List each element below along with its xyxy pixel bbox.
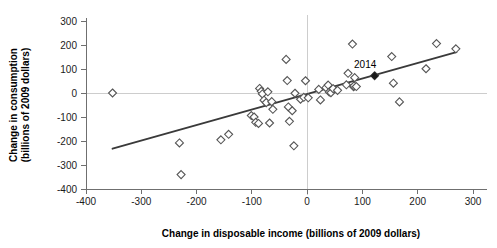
y-tick-label: -400 [57,184,77,195]
data-point-marker [177,171,185,179]
data-point-marker [301,77,309,85]
data-point-marker [290,142,298,150]
x-tick-label: -100 [242,196,262,207]
data-point-marker [269,105,277,113]
x-tick-label: 300 [465,196,482,207]
y-tick-label: -100 [57,112,77,123]
annotation-label-2014: 2014 [354,59,377,70]
data-point-marker [395,98,403,106]
scatter-chart: -400-300-200-1000100200300 -400-300-200-… [0,0,497,248]
y-tick-label: -200 [57,136,77,147]
data-point-marker [283,77,291,85]
y-axis-title-line2: (billions of 2009 dollars) [20,48,31,162]
data-point-marker [175,139,183,147]
y-axis-ticks: -400-300-200-1000100200300 [57,16,86,195]
y-tick-label: 200 [60,40,77,51]
data-point-marker [348,40,356,48]
y-tick-label: 300 [60,16,77,27]
x-axis-ticks: -400-300-200-1000100200300 [76,189,482,207]
data-point-marker [225,130,233,138]
x-tick-label: -400 [76,196,96,207]
x-tick-label: -300 [131,196,151,207]
data-points [109,40,460,179]
data-point-marker [266,119,274,127]
y-tick-label: -300 [57,160,77,171]
data-point-marker [316,96,324,104]
highlight-point-2014 [371,72,378,79]
x-tick-label: 0 [304,196,310,207]
axis-lines [86,18,487,189]
data-point-marker [389,79,397,87]
data-point-marker [388,53,396,61]
data-point-marker [433,40,441,48]
x-tick-label: 100 [354,196,371,207]
y-axis-title-line1: Change in consumption [8,48,19,162]
data-point-marker [217,136,225,144]
x-axis-title: Change in disposable income (billions of… [162,228,420,239]
regression-trend-line [113,52,457,148]
x-tick-label: 200 [409,196,426,207]
trend-line [113,52,457,148]
data-point-marker [344,69,352,77]
y-tick-label: 0 [71,88,77,99]
data-point-marker [282,55,290,63]
data-point-marker [452,45,460,53]
x-tick-label: -200 [187,196,207,207]
plot-area: -400-300-200-1000100200300 -400-300-200-… [0,0,497,248]
data-point-marker [422,65,430,73]
y-tick-label: 100 [60,64,77,75]
data-point-marker [109,89,117,97]
data-point-marker [285,117,293,125]
